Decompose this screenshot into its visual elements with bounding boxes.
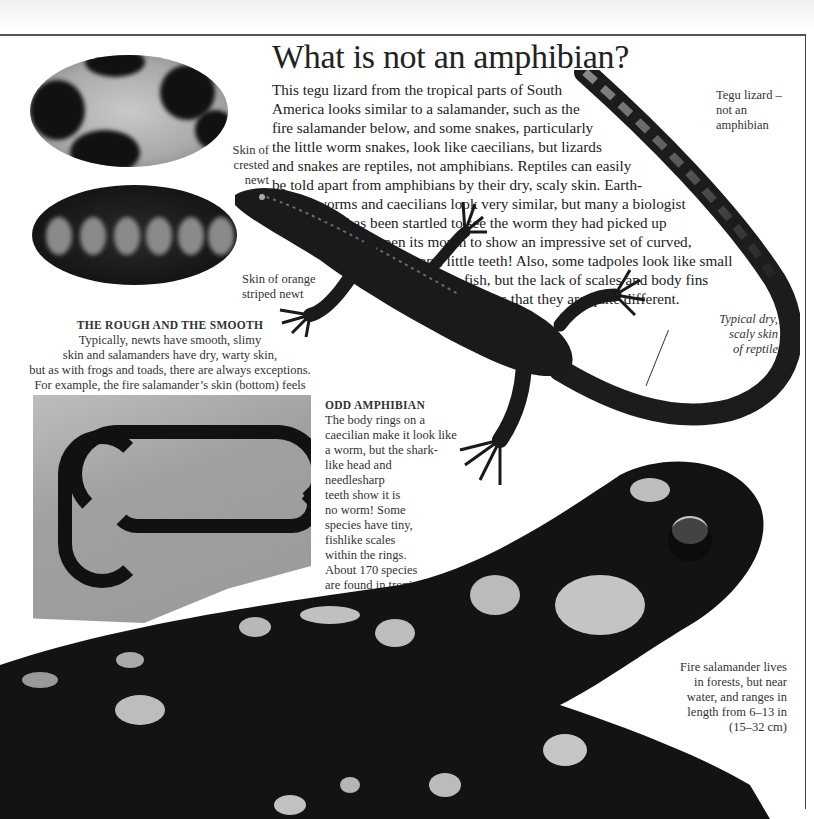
odd-amphibian-heading: ODD AMPHIBIAN xyxy=(325,398,465,413)
crested-newt-skin-image xyxy=(30,55,228,167)
orange-newt-skin-image xyxy=(32,185,237,285)
fire-salamander-image xyxy=(0,455,770,819)
tegu-lizard-image xyxy=(230,70,800,500)
top-rule-divider xyxy=(0,34,805,36)
page-top-shadow xyxy=(0,0,814,30)
reptile-skin-caption: Typical dry, scaly skin of reptile xyxy=(690,312,778,357)
fire-salamander-caption: Fire salamander lives in forests, but ne… xyxy=(652,660,787,735)
